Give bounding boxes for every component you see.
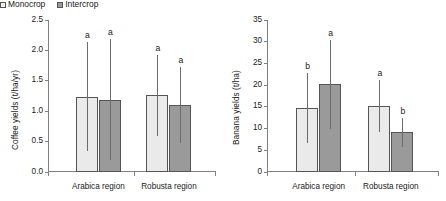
y-axis-tick-mark [264, 63, 267, 64]
y-axis-tick-label: 0 [257, 167, 262, 177]
chart-legend: Monocrop Intercrop [0, 0, 98, 9]
two-panel-bar-chart-figure: Monocrop Intercrop Coffee yields (t/ha/y… [0, 0, 446, 201]
y-axis-tick-label: 10 [253, 123, 262, 133]
y-axis-tick-mark [264, 150, 267, 151]
y-axis-tick-mark [45, 20, 48, 21]
legend-label-monocrop: Monocrop [8, 0, 45, 9]
significance-letter: b [305, 62, 310, 71]
y-axis-line [48, 20, 49, 172]
error-bar [307, 73, 308, 143]
significance-letter: a [179, 56, 184, 65]
error-bar [379, 80, 380, 132]
x-axis-tick-mark [134, 172, 135, 176]
error-bar [110, 39, 111, 161]
x-axis-tick-mark [267, 172, 268, 176]
significance-letter: b [400, 107, 405, 116]
error-bar [157, 55, 158, 135]
significance-letter: a [328, 29, 333, 38]
y-axis-tick-mark [45, 80, 48, 81]
plot-area: 05101520253035baab [267, 20, 439, 172]
x-axis-tick-mark [215, 172, 216, 176]
y-axis-tick-mark [264, 106, 267, 107]
legend-label-intercrop: Intercrop [65, 0, 98, 9]
x-axis-group-label: Arabica region [292, 182, 345, 191]
y-axis-tick-label: 20 [253, 80, 262, 90]
y-axis-tick-label: 25 [253, 58, 262, 68]
significance-letter: a [156, 44, 161, 53]
y-axis-tick-mark [264, 41, 267, 42]
significance-letter: a [85, 31, 90, 40]
y-axis-tick-label: 30 [253, 36, 262, 46]
y-axis-tick-mark [264, 20, 267, 21]
y-axis-tick-label: 15 [253, 101, 262, 111]
x-axis-group-label: Arabica region [72, 182, 125, 191]
y-axis-tick-label: 1.0 [32, 106, 43, 116]
y-axis-tick-mark [264, 128, 267, 129]
y-axis-tick-mark [264, 85, 267, 86]
significance-letter: a [377, 69, 382, 78]
y-axis-title: Banana yields (t/ha) [232, 70, 241, 145]
y-axis-tick-mark [45, 50, 48, 51]
legend-swatch-intercrop-icon [57, 2, 63, 8]
y-axis-title: Coffee yields (t/ha/yr) [11, 70, 20, 150]
y-axis-line [267, 20, 268, 172]
error-bar [87, 42, 88, 150]
x-axis-tick-mark [48, 172, 49, 176]
y-axis-tick-label: 1.5 [32, 75, 43, 85]
x-axis-group-label: Robusta region [363, 182, 419, 191]
y-axis-tick-label: 0.0 [32, 167, 43, 177]
plot-area: 0.00.51.01.52.02.5aaaa [48, 20, 216, 172]
chart-panel-coffee-yields: Monocrop Intercrop Coffee yields (t/ha/y… [0, 0, 223, 201]
legend-swatch-monocrop-icon [0, 2, 6, 8]
legend-item-intercrop: Intercrop [57, 0, 98, 9]
y-axis-tick-label: 5 [257, 145, 262, 155]
error-bar [330, 40, 331, 129]
x-axis-tick-mark [355, 172, 356, 176]
y-axis-tick-label: 2.0 [32, 45, 43, 55]
chart-panel-banana-yields: Banana yields (t/ha) 05101520253035baab … [223, 0, 446, 201]
y-axis-tick-label: 2.5 [32, 15, 43, 25]
y-axis-tick-mark [45, 141, 48, 142]
y-axis-tick-label: 0.5 [32, 136, 43, 146]
x-axis-tick-mark [438, 172, 439, 176]
significance-letter: a [108, 28, 113, 37]
x-axis-group-label: Robusta region [141, 182, 197, 191]
error-bar [402, 118, 403, 148]
error-bar [180, 67, 181, 144]
y-axis-tick-mark [45, 111, 48, 112]
y-axis-tick-label: 35 [253, 15, 262, 25]
legend-item-monocrop: Monocrop [0, 0, 45, 9]
